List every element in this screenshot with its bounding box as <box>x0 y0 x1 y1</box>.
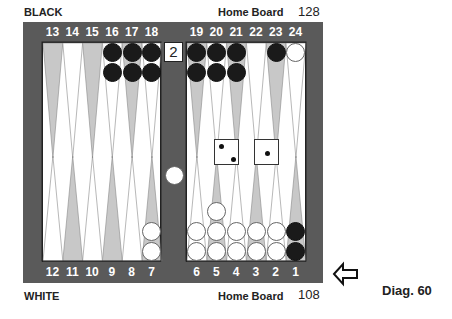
die-pip <box>265 151 270 156</box>
white-checker-point-4[interactable] <box>227 222 246 241</box>
black-checker-point-17[interactable] <box>123 43 142 62</box>
bottom-player-label: WHITE <box>24 290 59 302</box>
backgammon-board: 131415161718192021222324 121110987654321… <box>23 22 323 283</box>
white-checker-point-2[interactable] <box>267 242 286 261</box>
point-14[interactable] <box>63 43 83 158</box>
black-checker-point-16[interactable] <box>103 63 122 82</box>
bottom-pipcount: 108 <box>298 287 320 302</box>
black-checker-point-21[interactable] <box>227 43 246 62</box>
white-checker-point-2[interactable] <box>267 222 286 241</box>
white-checker-point-3[interactable] <box>247 222 266 241</box>
die-pip <box>219 144 224 149</box>
point-15[interactable] <box>83 43 103 158</box>
point-12[interactable] <box>43 156 63 261</box>
die-pip <box>231 157 236 162</box>
white-checker-bar[interactable] <box>165 166 184 185</box>
top-pipcount: 128 <box>298 4 320 19</box>
white-checker-point-3[interactable] <box>247 242 266 261</box>
diagram-label: Diag. 60 <box>382 283 432 298</box>
point-8[interactable] <box>122 156 142 261</box>
black-checker-point-21[interactable] <box>227 63 246 82</box>
white-checker-point-4[interactable] <box>227 242 246 261</box>
left-arrow-icon <box>330 261 370 291</box>
black-checker-point-23[interactable] <box>267 43 286 62</box>
doubling-cube[interactable]: 2 <box>164 42 183 62</box>
point-11[interactable] <box>63 156 83 261</box>
die-2 <box>254 139 279 165</box>
top-player-label: BLACK <box>24 6 63 18</box>
point-13[interactable] <box>43 43 63 158</box>
die-1 <box>214 139 239 165</box>
bottom-home-board-label: Home Board <box>218 290 283 302</box>
top-home-board-label: Home Board <box>218 6 283 18</box>
point-9[interactable] <box>102 156 122 261</box>
point-10[interactable] <box>83 156 103 261</box>
black-checker-point-17[interactable] <box>123 63 142 82</box>
black-checker-point-16[interactable] <box>103 43 122 62</box>
